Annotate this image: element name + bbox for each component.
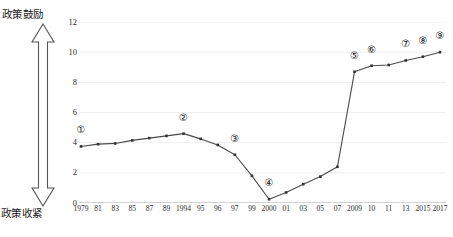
data-point xyxy=(234,153,237,156)
data-point xyxy=(422,55,425,58)
y-tick-label: 12 xyxy=(61,17,77,27)
y-tick-label: 10 xyxy=(61,47,77,57)
x-tick-label: 81 xyxy=(94,204,102,213)
data-point xyxy=(370,64,373,67)
series-line xyxy=(81,52,440,199)
y-tick-label: 8 xyxy=(61,77,77,87)
x-tick-label: 2009 xyxy=(347,204,362,213)
data-point xyxy=(148,137,151,140)
x-tick-label: 85 xyxy=(129,204,137,213)
data-point xyxy=(353,70,356,73)
x-tick-label: 13 xyxy=(402,204,410,213)
policy-intensity-line-chart: 政策鼓励 政策收紧 024681012 ①②③④⑤⑥⑦⑧⑨ 1979818385… xyxy=(0,0,453,237)
data-point xyxy=(216,144,219,147)
x-tick-label: 11 xyxy=(385,204,392,213)
data-point xyxy=(131,139,134,142)
data-point xyxy=(319,175,322,178)
y-tick-label: 4 xyxy=(61,137,77,147)
x-tick-label: 96 xyxy=(214,204,222,213)
data-point xyxy=(268,198,271,201)
plot-area xyxy=(79,22,446,203)
data-point xyxy=(405,59,408,62)
series-canvas xyxy=(79,22,446,203)
policy-tighten-label: 政策收紧 xyxy=(1,205,42,220)
policy-encourage-label: 政策鼓励 xyxy=(2,6,43,21)
x-tick-label: 03 xyxy=(299,204,307,213)
x-tick-label: 10 xyxy=(368,204,376,213)
x-tick-label: 2017 xyxy=(433,204,448,213)
y-tick-label: 2 xyxy=(61,167,77,177)
y-axis-ticks: 024681012 xyxy=(58,22,77,203)
data-point xyxy=(439,51,442,54)
x-tick-label: 89 xyxy=(163,204,171,213)
x-tick-label: 87 xyxy=(146,204,154,213)
data-point xyxy=(97,143,100,146)
x-axis-ticks: 1979818385878919949596979920000103050720… xyxy=(79,204,446,220)
data-point xyxy=(302,183,305,186)
x-tick-label: 07 xyxy=(334,204,342,213)
x-tick-label: 97 xyxy=(231,204,239,213)
x-tick-label: 95 xyxy=(197,204,205,213)
data-point xyxy=(114,142,117,145)
x-tick-label: 05 xyxy=(317,204,325,213)
data-point xyxy=(251,175,254,178)
data-point xyxy=(165,135,168,138)
y-tick-label: 6 xyxy=(61,107,77,117)
x-tick-label: 83 xyxy=(111,204,119,213)
x-tick-label: 1994 xyxy=(176,204,191,213)
data-point xyxy=(387,64,390,67)
data-point xyxy=(285,191,288,194)
data-point xyxy=(80,145,83,148)
x-tick-label: 1979 xyxy=(74,204,89,213)
x-tick-label: 99 xyxy=(248,204,256,213)
data-point xyxy=(199,138,202,141)
data-point xyxy=(182,132,185,135)
x-tick-label: 01 xyxy=(282,204,290,213)
x-tick-label: 2000 xyxy=(262,204,277,213)
data-point xyxy=(336,166,339,169)
x-tick-label: 2015 xyxy=(415,204,430,213)
